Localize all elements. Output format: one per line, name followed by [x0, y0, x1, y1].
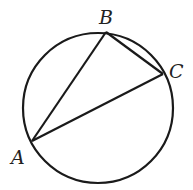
segment-bc	[106, 32, 163, 74]
segment-ca	[32, 74, 163, 141]
geometry-diagram: B C A	[0, 0, 193, 190]
segment-ab	[32, 32, 106, 141]
label-c: C	[169, 60, 184, 82]
label-b: B	[98, 6, 113, 28]
label-a: A	[9, 146, 25, 168]
